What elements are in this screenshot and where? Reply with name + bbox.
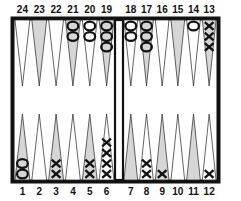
label-point-23: 23 [34, 4, 46, 15]
label-point-3: 3 [53, 186, 59, 197]
label-point-22: 22 [51, 4, 63, 15]
label-point-15: 15 [172, 4, 184, 15]
label-point-8: 8 [144, 186, 150, 197]
label-point-21: 21 [67, 4, 79, 15]
label-point-14: 14 [188, 4, 200, 15]
label-point-10: 10 [172, 186, 184, 197]
label-point-18: 18 [125, 4, 137, 15]
label-point-9: 9 [159, 186, 165, 197]
label-point-2: 2 [36, 186, 42, 197]
label-point-20: 20 [84, 4, 96, 15]
label-point-6: 6 [104, 186, 110, 197]
label-point-5: 5 [87, 186, 93, 197]
label-point-13: 13 [204, 4, 216, 15]
top-point-labels: 242322212019181716151413 [17, 4, 215, 15]
label-point-11: 11 [188, 186, 199, 197]
label-point-4: 4 [70, 186, 76, 197]
label-point-1: 1 [20, 186, 26, 197]
bottom-point-labels: 123456789101112 [20, 186, 216, 197]
backgammon-board: 242322212019181716151413 123456789101112 [0, 0, 241, 201]
label-point-7: 7 [128, 186, 134, 197]
board-bar [115, 20, 123, 180]
label-point-16: 16 [157, 4, 169, 15]
label-point-24: 24 [17, 4, 29, 15]
label-point-17: 17 [141, 4, 153, 15]
label-point-12: 12 [204, 186, 216, 197]
label-point-19: 19 [101, 4, 113, 15]
